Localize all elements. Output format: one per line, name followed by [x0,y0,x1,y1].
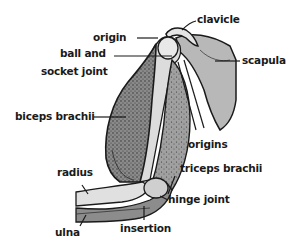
forearm-shape [76,178,172,222]
label-insertion: insertion [120,223,171,234]
arm-illustration [0,0,299,252]
leader-clavicle [182,21,196,30]
label-clavicle: clavicle [197,14,240,25]
label-origin: origin [93,32,126,43]
label-scapula: scapula [242,55,286,66]
label-biceps-brachii: biceps brachii [15,111,95,122]
label-hinge-joint: hinge joint [168,194,230,205]
label-socket-joint: socket joint [41,66,108,77]
label-ulna: ulna [55,227,80,238]
label-origins: origins [188,139,227,150]
label-ball-and: ball and [60,48,106,59]
label-triceps-brachii: triceps brachii [180,163,262,174]
label-radius: radius [57,167,93,178]
arm-anatomy-diagram: origin ball and socket joint biceps brac… [0,0,299,252]
